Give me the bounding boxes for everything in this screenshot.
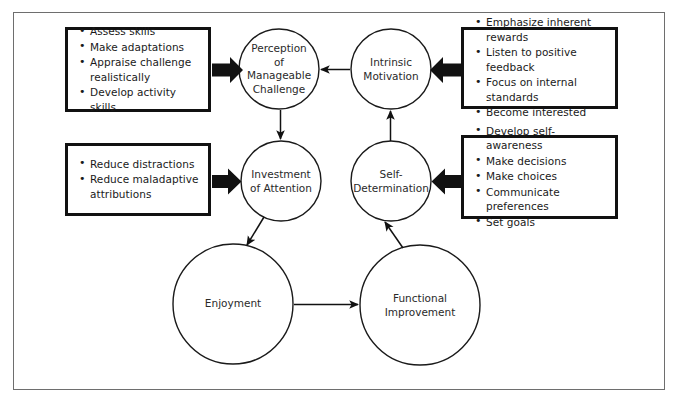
bullet-item: Set goals	[486, 215, 609, 230]
bullet-item: Make adaptations	[90, 40, 202, 55]
node-circle-investment-of-attention	[241, 141, 321, 221]
node-circle-functional-improvement	[360, 245, 480, 365]
block-arrow-box-perception	[212, 57, 243, 83]
bullet-box-perception: Assess skills Make adaptations Appraise …	[65, 27, 211, 112]
bullet-list-perception: Assess skills Make adaptations Appraise …	[68, 24, 208, 115]
bullet-item: Communicate preferences	[486, 185, 609, 214]
bullet-list-investment-of-attention: Reduce distractions Reduce maladaptive a…	[68, 157, 208, 203]
bullet-item: Reduce distractions	[90, 157, 202, 172]
bullet-item: Appraise challenge realistically	[90, 55, 202, 84]
bullet-list-intrinsic-motivation: Emphasize inherent rewards Listen to pos…	[464, 15, 615, 121]
node-circle-enjoyment	[173, 244, 293, 364]
bullet-item: Emphasize inherent rewards	[486, 15, 609, 44]
bullet-box-intrinsic-motivation: Emphasize inherent rewards Listen to pos…	[461, 27, 618, 109]
bullet-item: Listen to positive feedback	[486, 45, 609, 74]
connector-investment-to-enjoyment	[247, 217, 264, 245]
bullet-item: Make decisions	[486, 154, 609, 169]
block-arrow-box-intrinsic	[430, 57, 461, 83]
block-arrow-box-investment	[212, 169, 242, 195]
bullet-item: Develop activity skills	[90, 85, 202, 114]
bullet-item: Assess skills	[90, 24, 202, 39]
node-circle-self-determination	[351, 141, 431, 221]
bullet-item: Focus on internal standards	[486, 75, 609, 104]
bullet-item: Become interested	[486, 105, 609, 120]
bullet-list-self-determination: Develop self-awareness Make decisions Ma…	[464, 124, 615, 231]
bullet-item: Reduce maladaptive attributions	[90, 172, 202, 201]
bullet-item: Make choices	[486, 169, 609, 184]
node-circle-intrinsic-motivation	[351, 29, 431, 109]
block-arrow-box-selfdetermination	[432, 169, 462, 195]
bullet-item: Develop self-awareness	[486, 124, 609, 153]
node-circle-perception	[239, 29, 319, 109]
diagram-canvas: Perception of Manageable Challenge Intri…	[0, 0, 677, 399]
bullet-box-investment-of-attention: Reduce distractions Reduce maladaptive a…	[65, 143, 211, 216]
bullet-box-self-determination: Develop self-awareness Make decisions Ma…	[461, 135, 618, 219]
connector-functional-to-selfdetermination	[385, 222, 403, 248]
